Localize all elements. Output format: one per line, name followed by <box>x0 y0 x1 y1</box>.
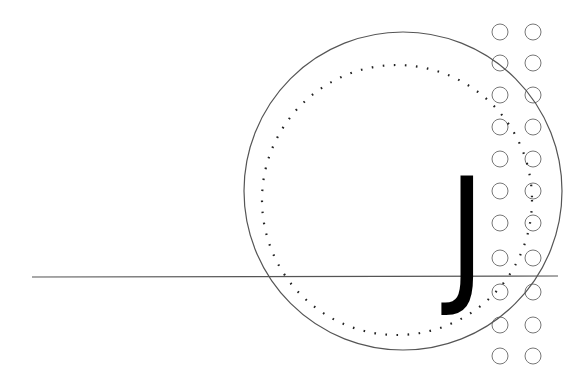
grid-circle <box>525 87 541 103</box>
grid-circle <box>492 119 508 135</box>
dotted-circle <box>262 65 532 335</box>
grid-circle <box>525 151 541 167</box>
outer-circle <box>244 32 562 350</box>
grid-circle <box>525 284 541 300</box>
grid-circle <box>492 284 508 300</box>
grid-circle <box>492 215 508 231</box>
grid-circle <box>492 348 508 364</box>
grid-circle <box>525 317 541 333</box>
grid-circle <box>525 215 541 231</box>
grid-circle <box>492 24 508 40</box>
grid-circle <box>492 151 508 167</box>
letter-glyph: J <box>448 158 486 308</box>
grid-circle <box>525 119 541 135</box>
grid-circle <box>492 250 508 266</box>
grid-circle <box>492 55 508 71</box>
grid-circle <box>525 250 541 266</box>
circle-grid <box>492 24 541 364</box>
grid-circle <box>492 183 508 199</box>
grid-circle <box>525 348 541 364</box>
grid-circle <box>525 55 541 71</box>
grid-circle <box>525 24 541 40</box>
grid-circle <box>492 317 508 333</box>
grid-circle <box>492 87 508 103</box>
drawing-canvas <box>0 0 587 385</box>
